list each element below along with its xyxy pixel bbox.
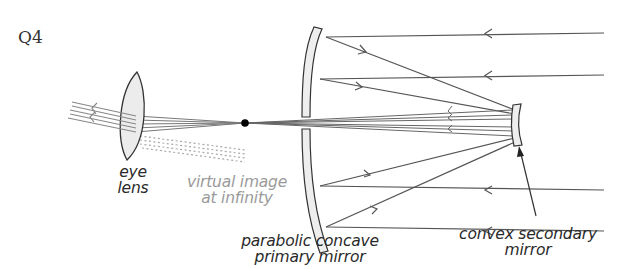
virtual-image-label: virtual image at infinity [172,174,302,206]
focal-point [241,119,249,127]
eye-lens [120,72,144,160]
converging-rays [245,110,513,136]
secondary-mirror-label: convex secondary mirror [448,226,608,258]
reflected-rays [320,37,515,227]
virtual-image-dotted-lines [140,136,245,162]
secondary-pointer-arrow [517,146,536,216]
incoming-rays [320,33,604,231]
primary-mirror-label: parabolic concave primary mirror [230,233,390,265]
converging-arrowheads [448,106,452,132]
primary-mirror-upper [302,27,322,117]
eye-lens-label: eye lens [108,164,158,196]
secondary-mirror [512,104,522,146]
diverging-rays [136,116,245,132]
incoming-arrowheads [485,29,492,235]
